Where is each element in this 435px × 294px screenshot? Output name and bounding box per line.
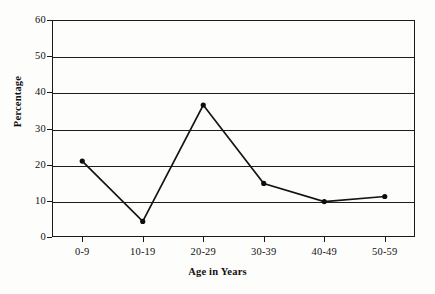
y-axis-tick-label: 50 bbox=[16, 51, 46, 62]
gridline bbox=[53, 93, 414, 94]
y-axis-tick-label: 10 bbox=[16, 196, 46, 207]
y-axis-tick-mark bbox=[47, 92, 52, 93]
x-axis-tick-label: 0-9 bbox=[52, 246, 112, 257]
y-axis-tick-mark bbox=[47, 20, 52, 21]
x-axis-tick-label: 50-59 bbox=[355, 246, 415, 257]
line-chart: 0102030405060 Percentage Age in Years 0-… bbox=[0, 0, 435, 294]
x-axis-tick-label: 40-49 bbox=[294, 246, 354, 257]
x-axis-tick-mark bbox=[82, 237, 83, 242]
x-axis-tick-label: 10-19 bbox=[113, 246, 173, 257]
gridline bbox=[53, 202, 414, 203]
y-axis-tick-mark bbox=[47, 56, 52, 57]
x-axis-tick-mark bbox=[203, 237, 204, 242]
plot-area bbox=[52, 20, 415, 237]
gridline bbox=[53, 166, 414, 167]
y-axis-tick-label: 60 bbox=[16, 15, 46, 26]
y-axis-tick-mark bbox=[47, 237, 52, 238]
x-axis-tick-label: 20-29 bbox=[173, 246, 233, 257]
x-axis-tick-mark bbox=[264, 237, 265, 242]
y-axis-tick-label: 0 bbox=[16, 232, 46, 243]
x-axis-title: Age in Years bbox=[0, 266, 435, 277]
x-axis-tick-mark bbox=[385, 237, 386, 242]
gridline bbox=[53, 130, 414, 131]
y-axis-title: Percentage bbox=[12, 62, 23, 142]
y-axis-tick-mark bbox=[47, 129, 52, 130]
x-axis-tick-mark bbox=[324, 237, 325, 242]
x-axis-tick-label: 30-39 bbox=[234, 246, 294, 257]
x-axis-tick-mark bbox=[143, 237, 144, 242]
gridline bbox=[53, 57, 414, 58]
y-axis-tick-mark bbox=[47, 165, 52, 166]
y-axis-tick-label: 20 bbox=[16, 160, 46, 171]
y-axis-tick-mark bbox=[47, 201, 52, 202]
